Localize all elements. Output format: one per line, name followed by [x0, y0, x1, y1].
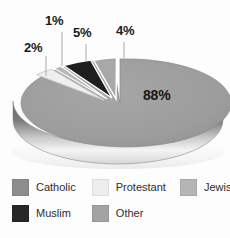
data-label-catholic: 88% — [143, 88, 170, 102]
legend-label-jewish: Jewish — [204, 182, 230, 193]
legend-item-muslim[interactable]: Muslim — [12, 202, 71, 224]
legend-item-catholic[interactable]: Catholic — [12, 176, 76, 198]
legend-label-muslim: Muslim — [36, 208, 71, 219]
pie-chart-figure: 2% 1% 5% 4% 88% Catholic Protestant Jewi… — [0, 0, 230, 238]
legend-swatch-other — [92, 205, 109, 222]
legend-item-jewish[interactable]: Jewish — [180, 176, 230, 198]
legend-swatch-muslim — [12, 205, 29, 222]
data-label-jewish: 1% — [45, 14, 63, 27]
legend-item-protestant[interactable]: Protestant — [92, 176, 166, 198]
chart-plot-area: 2% 1% 5% 4% 88% — [0, 0, 230, 172]
chart-legend: Catholic Protestant Jewish Muslim Other — [0, 172, 230, 238]
legend-label-other: Other — [116, 208, 144, 219]
legend-swatch-catholic — [12, 179, 29, 196]
pie-chart-graphic — [0, 0, 230, 172]
data-label-muslim: 5% — [73, 26, 91, 39]
legend-label-catholic: Catholic — [36, 182, 76, 193]
data-label-protestant: 2% — [24, 41, 42, 54]
legend-row: Muslim Other — [0, 202, 230, 224]
legend-row: Catholic Protestant Jewish — [0, 176, 230, 198]
legend-swatch-protestant — [92, 179, 109, 196]
legend-swatch-jewish — [180, 179, 197, 196]
legend-label-protestant: Protestant — [116, 182, 166, 193]
data-label-other: 4% — [116, 24, 134, 37]
legend-item-other[interactable]: Other — [92, 202, 144, 224]
